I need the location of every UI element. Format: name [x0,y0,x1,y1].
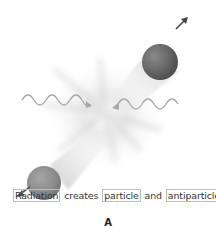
panel-label: A [0,217,216,228]
caption-term-antiparticle: antiparticle. [166,189,216,202]
pair-production-figure: Radiation creates particle and antiparti… [0,0,216,237]
upper-right-particle [142,44,178,80]
caption-word-creates: creates [63,190,99,202]
upper-right-arrow-icon [176,17,188,29]
caption-term-radiation: Radiation [13,189,60,202]
caption: Radiation creates particle and antiparti… [13,189,216,202]
caption-word-and: and [144,190,163,202]
caption-term-particle: particle [102,189,141,202]
